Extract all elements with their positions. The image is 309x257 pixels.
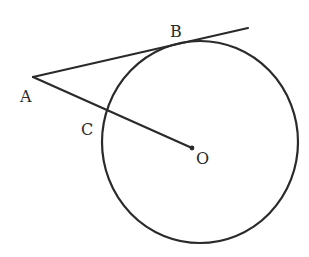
diagram-canvas: A B C O <box>0 0 309 257</box>
circle-o <box>102 41 298 243</box>
label-o: O <box>196 149 209 168</box>
geometry-diagram: A B C O <box>0 0 309 257</box>
label-c: C <box>81 120 93 139</box>
label-a: A <box>19 87 32 106</box>
segment-ao <box>33 77 192 148</box>
label-b: B <box>170 22 182 41</box>
center-point-o <box>190 146 195 151</box>
tangent-line-ab <box>33 28 248 77</box>
